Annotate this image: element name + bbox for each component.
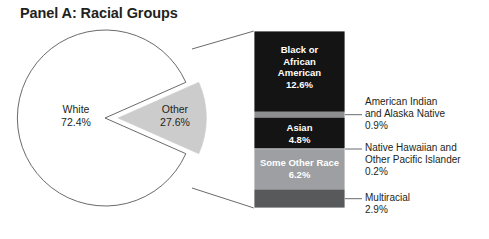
callout-line-2: and Alaska Native: [365, 108, 445, 119]
callout-multiracial: Multiracial 2.9%: [365, 192, 410, 216]
callout-native-hawaiian-and-other-pacific-islander: Native Hawaiian and Other Pacific Island…: [365, 142, 461, 179]
chart-figure: Panel A: Racial Groups White: [0, 0, 489, 239]
bar-label-asian: Asian 4.8%: [254, 122, 345, 145]
pie-label-other-name: Other: [162, 103, 188, 115]
pie-label-other-value: 27.6%: [160, 116, 190, 128]
bar-label-black-or-african-american: Black or African American 12.6%: [254, 44, 345, 90]
bar-label-line-2: African: [283, 56, 316, 67]
bar-label-value: 4.8%: [289, 134, 311, 145]
pie-label-white-name: White: [63, 103, 90, 115]
callout-line-1: Native Hawaiian and: [365, 142, 457, 153]
callout-line-2: Other Pacific Islander: [365, 154, 461, 165]
pie-label-white-value: 72.4%: [61, 116, 91, 128]
bar-label-value: 6.2%: [289, 169, 311, 180]
bar-segment-native-hawaiian-and-other-pacific-islander: [254, 148, 345, 149]
callout-value: 2.9%: [365, 204, 410, 216]
callout-value: 0.9%: [365, 120, 445, 132]
bar-segment-multiracial: [254, 189, 345, 208]
callout-american-indian-and-alaska-native: American Indian and Alaska Native 0.9%: [365, 96, 445, 133]
callout-value: 0.2%: [365, 166, 461, 178]
callout-line-1: American Indian: [365, 96, 437, 107]
bar-label-line-1: Asian: [287, 122, 313, 133]
pie-label-white: White 72.4%: [44, 103, 108, 129]
bar-label-line-1: Some Other Race: [260, 157, 339, 168]
bar-label-line-1: Black or: [281, 44, 319, 55]
pie-label-other: Other 27.6%: [147, 103, 203, 129]
bar-label-line-3: American: [278, 67, 321, 78]
bar-label-some-other-race: Some Other Race 6.2%: [254, 157, 345, 180]
callout-leader-lines: [345, 115, 362, 199]
bar-segment-american-indian-and-alaska-native: [254, 112, 345, 118]
callout-line-1: Multiracial: [365, 192, 410, 203]
bar-label-value: 12.6%: [286, 79, 313, 90]
